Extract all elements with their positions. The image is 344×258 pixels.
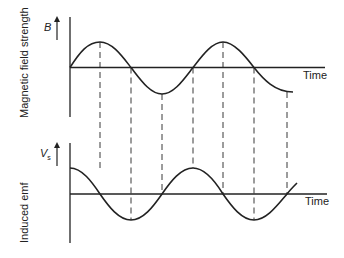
arrowhead-icon — [54, 16, 60, 22]
dashed-guides — [100, 42, 287, 220]
bottom-time-label: Time — [305, 195, 329, 207]
arrowhead-icon — [54, 142, 60, 148]
b-symbol: B — [44, 21, 51, 33]
top-time-label: Time — [303, 69, 327, 81]
top-panel: B Time Magnetic field strength — [18, 7, 327, 118]
bottom-panel: Vs Time Induced emf — [18, 142, 329, 243]
vs-symbol: Vs — [40, 147, 51, 161]
induction-diagram: B Time Magnetic field strength Vs Time I… — [0, 0, 344, 258]
magnetic-field-strength-label: Magnetic field strength — [18, 7, 30, 118]
induced-emf-label: Induced emf — [18, 182, 30, 243]
